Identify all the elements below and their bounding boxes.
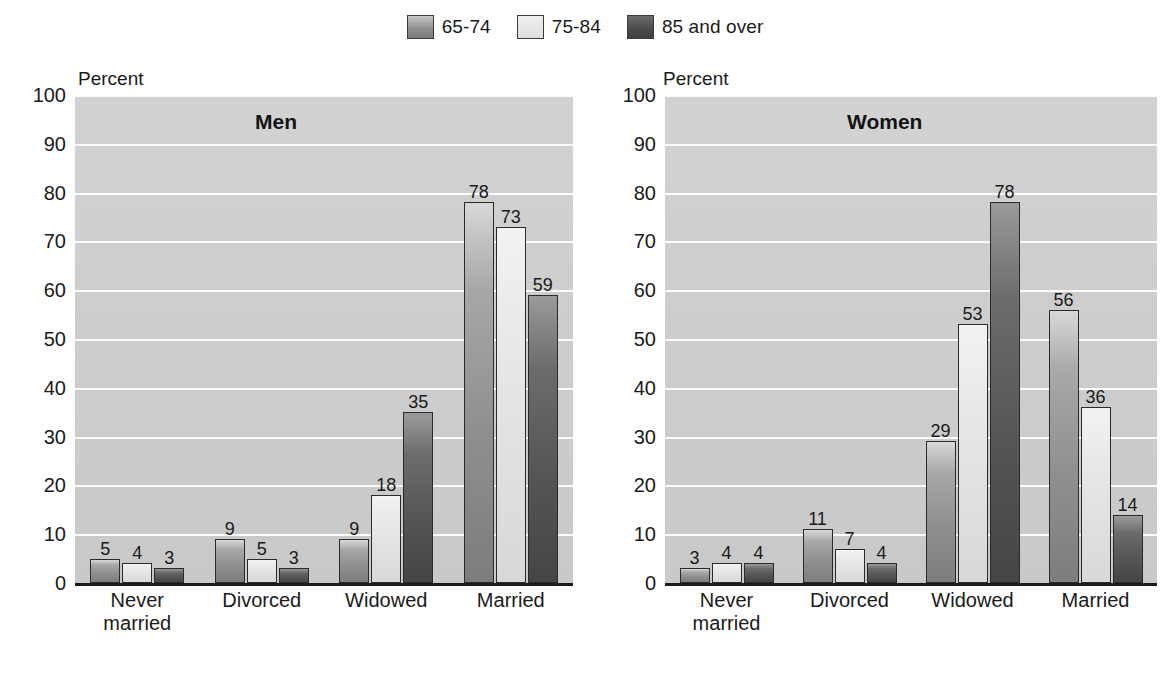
y-tick-label-0: 0 <box>20 572 66 595</box>
bar-slot: 14 <box>1113 95 1143 583</box>
y-tick-label-30: 30 <box>610 425 656 448</box>
y-tick-label-40: 40 <box>610 376 656 399</box>
legend-label-1: 75-84 <box>552 16 601 38</box>
bar-value-label: 9 <box>349 520 359 538</box>
panel-title-men: Men <box>255 110 297 134</box>
bar[interactable]: 29 <box>926 441 956 583</box>
bar-slot: 35 <box>403 95 433 583</box>
bar-value-label: 4 <box>753 544 763 562</box>
bar[interactable]: 9 <box>339 539 369 583</box>
bar[interactable]: 73 <box>496 227 526 583</box>
x-axis-label: Married <box>477 589 545 612</box>
y-axis-title-women: Percent <box>663 68 728 90</box>
bar-value-label: 5 <box>100 540 110 558</box>
x-axis-labels-women: Never marriedDivorcedWidowedMarried <box>665 589 1157 659</box>
bar-value-label: 73 <box>501 208 521 226</box>
bar-slot: 9 <box>215 95 245 583</box>
bar[interactable]: 4 <box>867 563 897 583</box>
bar[interactable]: 7 <box>835 549 865 583</box>
legend-entry-2: 85 and over <box>627 15 763 39</box>
x-axis-baseline <box>665 583 1157 586</box>
bar-slot: 59 <box>528 95 558 583</box>
bar-value-label: 29 <box>930 422 950 440</box>
y-tick-label-20: 20 <box>20 474 66 497</box>
legend-swatch-65-74 <box>407 15 434 39</box>
bar-slot: 29 <box>926 95 956 583</box>
y-tick-label-100: 100 <box>20 84 66 107</box>
legend-entry-0: 65-74 <box>407 15 491 39</box>
bar-value-label: 4 <box>132 544 142 562</box>
legend-entry-1: 75-84 <box>517 15 601 39</box>
y-tick-label-100: 100 <box>610 84 656 107</box>
chart-panel-men: Percent 0102030405060708090100 543953918… <box>0 62 585 662</box>
bar-value-label: 9 <box>225 520 235 538</box>
y-tick-label-50: 50 <box>610 328 656 351</box>
bar-slot: 4 <box>867 95 897 583</box>
bar[interactable]: 9 <box>215 539 245 583</box>
bar[interactable]: 4 <box>712 563 742 583</box>
y-axis-ticks-women: 0102030405060708090100 <box>604 95 656 583</box>
bar-value-label: 78 <box>994 183 1014 201</box>
bar-value-label: 14 <box>1117 496 1137 514</box>
bar-value-label: 78 <box>469 183 489 201</box>
bar-value-label: 11 <box>808 510 827 528</box>
bar[interactable]: 35 <box>403 412 433 583</box>
bar[interactable]: 78 <box>990 202 1020 583</box>
bar[interactable]: 5 <box>90 559 120 583</box>
bar-slot: 18 <box>371 95 401 583</box>
y-tick-label-30: 30 <box>20 425 66 448</box>
bar-value-label: 35 <box>408 393 428 411</box>
bar[interactable]: 4 <box>122 563 152 583</box>
bar-slot: 56 <box>1049 95 1079 583</box>
legend-swatch-75-84 <box>517 15 544 39</box>
x-axis-label: Divorced <box>222 589 301 612</box>
bars-layer-women: 3441174295378563614 <box>665 95 1157 583</box>
bar[interactable]: 59 <box>528 295 558 583</box>
x-axis-label: Widowed <box>345 589 427 612</box>
y-tick-label-0: 0 <box>610 572 656 595</box>
bar[interactable]: 5 <box>247 559 277 583</box>
bar-slot: 73 <box>496 95 526 583</box>
bar-slot: 9 <box>339 95 369 583</box>
bar-slot: 4 <box>712 95 742 583</box>
bar-slot: 3 <box>279 95 309 583</box>
legend-label-0: 65-74 <box>442 16 491 38</box>
y-tick-label-90: 90 <box>20 132 66 155</box>
bar-group: 295378 <box>911 95 1034 583</box>
bar-group: 563614 <box>1034 95 1157 583</box>
y-tick-label-80: 80 <box>20 181 66 204</box>
bar[interactable]: 56 <box>1049 310 1079 583</box>
bar-value-label: 3 <box>164 549 174 567</box>
x-axis-label: Never married <box>103 589 171 635</box>
bar-value-label: 36 <box>1085 388 1105 406</box>
x-axis-baseline <box>75 583 573 586</box>
x-axis-label: Widowed <box>931 589 1013 612</box>
y-tick-label-50: 50 <box>20 328 66 351</box>
bar-value-label: 3 <box>289 549 299 567</box>
bar[interactable]: 3 <box>680 568 710 583</box>
chart-legend: 65-74 75-84 85 and over <box>0 10 1170 44</box>
bar-group: 344 <box>665 95 788 583</box>
bar-value-label: 5 <box>257 540 267 558</box>
x-axis-label: Never married <box>693 589 761 635</box>
bar[interactable]: 4 <box>744 563 774 583</box>
y-tick-label-60: 60 <box>610 279 656 302</box>
bar-slot: 5 <box>90 95 120 583</box>
bar[interactable]: 53 <box>958 324 988 583</box>
bar-slot: 53 <box>958 95 988 583</box>
bar-slot: 4 <box>744 95 774 583</box>
bar-slot: 4 <box>122 95 152 583</box>
bar[interactable]: 3 <box>279 568 309 583</box>
bar-group: 1174 <box>788 95 911 583</box>
bar[interactable]: 3 <box>154 568 184 583</box>
bar-value-label: 59 <box>533 276 553 294</box>
bar-value-label: 3 <box>689 549 699 567</box>
bar[interactable]: 36 <box>1081 407 1111 583</box>
legend-label-2: 85 and over <box>662 16 763 38</box>
bar[interactable]: 14 <box>1113 515 1143 583</box>
bar[interactable]: 11 <box>803 529 833 583</box>
y-tick-label-40: 40 <box>20 376 66 399</box>
bar-group: 543 <box>75 95 200 583</box>
bar[interactable]: 78 <box>464 202 494 583</box>
bar[interactable]: 18 <box>371 495 401 583</box>
